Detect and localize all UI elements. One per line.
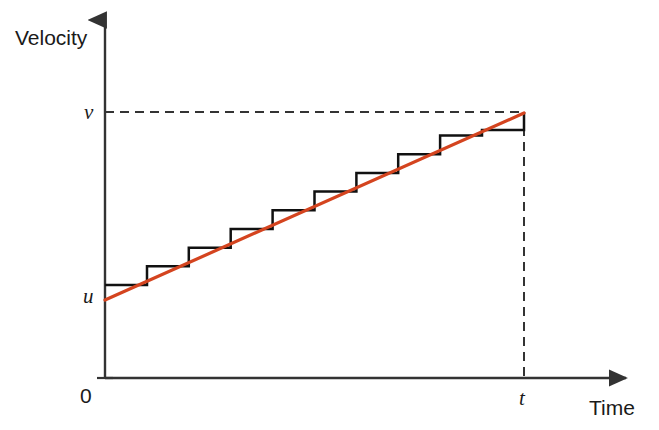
guide-lines-group (105, 112, 524, 378)
axes-group (97, 20, 626, 378)
final-velocity-label: v (84, 100, 93, 125)
origin-label: 0 (80, 384, 92, 408)
y-axis-title: Velocity (15, 26, 87, 50)
final-time-label: t (519, 386, 525, 411)
velocity-time-graph (0, 0, 659, 430)
staircase-approximation-curve (105, 112, 524, 285)
initial-velocity-label: u (83, 284, 94, 309)
uniform-acceleration-line (105, 113, 524, 300)
x-axis-title: Time (589, 396, 635, 420)
